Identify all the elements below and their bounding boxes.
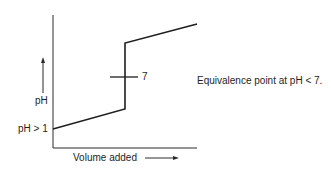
ph-seven-label: 7	[142, 72, 148, 82]
start-ph-label: pH > 1	[18, 124, 48, 134]
x-axis-arrow-icon	[145, 156, 179, 160]
y-axis-label: pH	[35, 96, 48, 106]
titration-chart	[0, 0, 331, 178]
y-axis-arrow-icon	[41, 57, 45, 93]
x-axis-label: Volume added	[73, 153, 137, 163]
equivalence-note: Equivalence point at pH < 7.	[197, 76, 322, 86]
